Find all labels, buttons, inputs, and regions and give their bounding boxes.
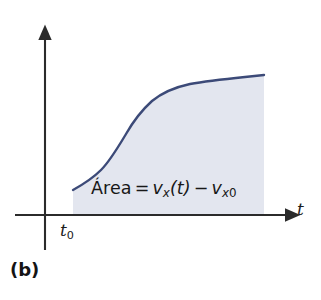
- v-term-2-subscript: x: [222, 186, 229, 200]
- v-term-2: v: [211, 178, 221, 198]
- x-tick-label-t0: t0: [60, 222, 74, 242]
- v-term-1: v: [152, 178, 162, 198]
- graph-canvas: [0, 0, 321, 300]
- v-term-1-subscript: x: [163, 186, 170, 200]
- v-term-2-subscript-zero: 0: [229, 186, 237, 200]
- x-axis-label: t: [297, 201, 304, 218]
- area-word: Área: [91, 178, 132, 198]
- area-equation-label: Área=vx(t)−vx0: [91, 180, 237, 200]
- equals-sign: =: [132, 178, 153, 198]
- t0-base: t: [60, 220, 67, 240]
- figure-panel-b: Área=vx(t)−vx0 t0 t (b): [0, 0, 321, 300]
- panel-caption: (b): [10, 261, 39, 279]
- minus-sign: −: [191, 178, 212, 198]
- t0-subscript: 0: [67, 229, 74, 242]
- v-term-1-argument: (t): [170, 178, 191, 198]
